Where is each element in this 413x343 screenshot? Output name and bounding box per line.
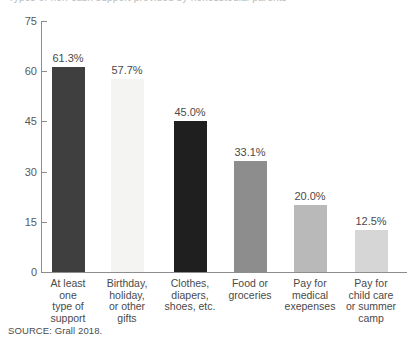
y-axis-tick-label-wrap: 75 [0, 21, 37, 22]
y-axis-tick [42, 172, 47, 173]
y-axis-tick [42, 121, 47, 122]
bar [52, 67, 85, 272]
clipped-title-text: Types of non-cash support provided by no… [8, 0, 287, 3]
y-axis-tick [42, 272, 47, 273]
y-axis-tick-label-wrap: 30 [0, 172, 37, 173]
x-axis-category-label: Pay for child care or summer camp [340, 278, 402, 324]
bar-value-label: 57.7% [97, 65, 157, 76]
y-axis-tick-label: 0 [1, 267, 37, 278]
x-axis-category-label: Clothes, diapers, shoes, etc. [159, 278, 221, 313]
y-axis-tick-label-wrap: 15 [0, 222, 37, 223]
bar-value-label: 61.3% [38, 53, 98, 64]
y-axis-tick-label: 60 [1, 66, 37, 77]
y-axis-tick-label-wrap: 45 [0, 121, 37, 122]
y-axis-tick [42, 222, 47, 223]
y-axis-tick-label: 15 [1, 217, 37, 228]
bar [294, 205, 327, 272]
y-axis-tick-label-wrap: 0 [0, 272, 37, 273]
x-axis-category-label: At least one type of support [37, 278, 99, 324]
bar-chart: 01530456075 61.3%57.7%45.0%33.1%20.0%12.… [0, 9, 413, 319]
y-axis-tick-label: 30 [1, 167, 37, 178]
y-axis-tick-label: 75 [1, 16, 37, 27]
bar [234, 161, 267, 272]
y-axis-tick-label: 45 [1, 116, 37, 127]
y-axis-tick-label-wrap: 60 [0, 71, 37, 72]
clipped-title-strip: Types of non-cash support provided by no… [0, 0, 413, 9]
y-axis-tick [42, 71, 47, 72]
y-axis-tick [42, 21, 47, 22]
bar-value-label: 33.1% [220, 147, 280, 158]
x-axis-category-label: Food or groceries [219, 278, 281, 301]
bar-value-label: 12.5% [341, 216, 401, 227]
bar-value-label: 45.0% [160, 107, 220, 118]
x-axis-category-label: Pay for medical exepenses [279, 278, 341, 313]
x-axis-category-label: Birthday, holiday, or other gifts [96, 278, 158, 324]
bar-value-label: 20.0% [280, 191, 340, 202]
bar [174, 121, 207, 272]
bar [111, 79, 144, 272]
bar [355, 230, 388, 272]
x-axis-line [41, 272, 407, 273]
source-note: SOURCE: Grall 2018. [8, 325, 102, 336]
